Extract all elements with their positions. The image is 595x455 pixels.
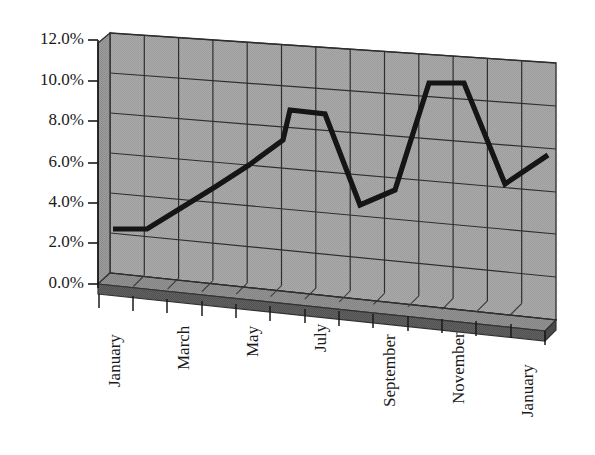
xtick-label-september: September xyxy=(380,334,400,407)
xtick-label-november: November xyxy=(449,332,469,404)
ytick-label-10: 10.0% xyxy=(16,70,84,90)
xtick-label-january-start: January xyxy=(105,334,125,387)
ytick-label-8: 8.0% xyxy=(16,110,84,130)
ytick-label-4: 4.0% xyxy=(16,192,84,212)
ytick-label-2: 2.0% xyxy=(16,232,84,252)
xtick-label-march: March xyxy=(174,326,194,370)
ytick-label-6: 6.0% xyxy=(16,152,84,172)
ytick-label-12: 12.0% xyxy=(16,29,84,49)
plot-back-wall xyxy=(110,33,556,320)
xtick-label-may: May xyxy=(243,326,263,357)
plot-left-wall xyxy=(98,33,110,284)
chart-canvas xyxy=(0,0,595,455)
y-axis xyxy=(88,40,98,288)
xtick-label-july: July xyxy=(311,324,331,352)
chart-container: 12.0% 10.0% 8.0% 6.0% 4.0% 2.0% 0.0% Jan… xyxy=(0,0,595,455)
xtick-label-january-end: January xyxy=(518,364,538,417)
ytick-label-0: 0.0% xyxy=(16,273,84,293)
